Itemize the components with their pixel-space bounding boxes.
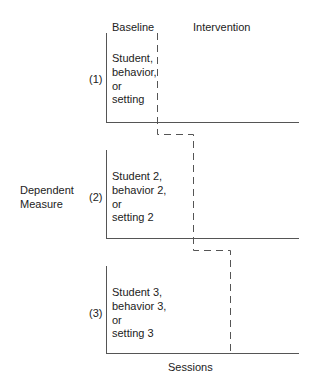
phase-change-dashed-line bbox=[0, 0, 316, 388]
